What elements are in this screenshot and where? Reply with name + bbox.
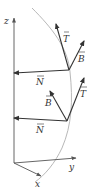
normal-vector-lower: [14, 118, 67, 121]
x-axis: [14, 163, 41, 176]
y-axis: [14, 158, 76, 163]
tangent-label-lower: T: [80, 87, 87, 99]
y-axis-label: y: [68, 162, 75, 172]
binormal-label-lower: B: [44, 96, 52, 108]
svg-text:B: B: [77, 54, 85, 64]
svg-text:B: B: [44, 98, 52, 108]
svg-text:T: T: [63, 34, 70, 44]
binormal-label-upper: B: [77, 52, 85, 64]
frenet-frame-upper: T B N: [14, 24, 85, 87]
svg-text:N: N: [35, 125, 45, 135]
svg-text:T: T: [80, 89, 87, 99]
frenet-frame-lower: B T N: [14, 78, 87, 135]
normal-vector-upper: [14, 70, 69, 73]
tangent-vector-upper: [56, 24, 69, 70]
normal-label-upper: N: [35, 76, 45, 87]
svg-text:N: N: [35, 77, 45, 87]
tangent-label-upper: T: [63, 32, 70, 44]
binormal-vector-lower: [50, 91, 67, 121]
tangent-vector-lower: [67, 78, 84, 121]
normal-label-lower: N: [35, 124, 45, 135]
x-axis-label: x: [35, 179, 40, 189]
z-axis-label: z: [3, 16, 9, 26]
frenet-frame-diagram: z y x T B N B T: [0, 0, 91, 194]
